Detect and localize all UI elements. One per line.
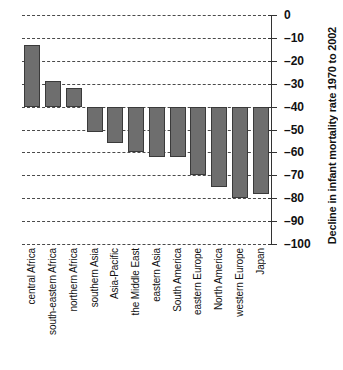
y-tick-label-neg60: –60: [284, 145, 304, 159]
bar-central-africa: [24, 45, 40, 107]
y-axis-title-text: Decline in infant mortality rate 1970 to…: [326, 27, 338, 244]
y-axis-title: Decline in infant mortality rate 1970 to…: [323, 15, 341, 244]
bar-south-eastern-africa: [45, 81, 61, 106]
x-label-western-europe: western Europe: [234, 248, 245, 317]
x-label-south-eastern-africa: south-eastern Africa: [47, 248, 58, 335]
gridline-neg100: [22, 244, 271, 245]
y-tick-label-neg70: –70: [284, 168, 304, 182]
y-tick-label-neg100: –100: [284, 237, 311, 251]
x-axis-labels: central Africasouth-eastern Africanorthe…: [22, 248, 271, 366]
y-tick-label-neg20: –20: [284, 54, 304, 68]
y-tick-label-neg30: –30: [284, 77, 304, 91]
y-axis: 0–10–20–30–40–50–60–70–80–90–100: [271, 15, 272, 244]
x-label-asia-pacific: Asia-Pacific: [109, 248, 120, 299]
y-tick-neg70: [268, 175, 277, 176]
x-label-northern-africa: northern Africa: [68, 248, 79, 312]
bar-chart: 0–10–20–30–40–50–60–70–80–90–100 Decline…: [0, 0, 343, 370]
bar-southern-asia: [87, 107, 103, 132]
x-label-japan: Japan: [255, 248, 266, 275]
y-tick-neg80: [268, 198, 277, 199]
y-tick-label-0: 0: [284, 8, 291, 22]
y-tick-neg60: [268, 152, 277, 153]
x-label-eastern-europe: eastern Europe: [192, 248, 203, 315]
bar-series: [22, 15, 271, 244]
bar-northern-africa: [66, 88, 82, 106]
bar-north-america: [211, 107, 227, 187]
y-tick-neg50: [268, 130, 277, 131]
y-tick-label-neg90: –90: [284, 214, 304, 228]
x-label-south-america: South America: [172, 248, 183, 312]
x-label-north-america: North America: [213, 248, 224, 310]
bar-south-america: [170, 107, 186, 157]
y-tick-label-neg80: –80: [284, 191, 304, 205]
y-tick-neg100: [268, 244, 277, 245]
y-tick-label-neg50: –50: [284, 123, 304, 137]
y-tick-neg20: [268, 61, 277, 62]
bar-asia-pacific: [107, 107, 123, 144]
y-tick-0: [268, 15, 277, 16]
bar-eastern-asia: [149, 107, 165, 157]
y-tick-neg90: [268, 221, 277, 222]
y-tick-label-neg10: –10: [284, 31, 304, 45]
bar-japan: [253, 107, 269, 194]
bar-eastern-europe: [190, 107, 206, 176]
bar-western-europe: [232, 107, 248, 199]
x-label-the-middle-east: the Middle East: [130, 248, 141, 315]
x-label-southern-asia: southern Asia: [89, 248, 100, 307]
x-label-central-africa: central Africa: [26, 248, 37, 304]
y-tick-neg10: [268, 38, 277, 39]
y-tick-neg30: [268, 84, 277, 85]
y-tick-neg40: [268, 107, 277, 108]
y-tick-label-neg40: –40: [284, 100, 304, 114]
plot-area: [22, 15, 271, 244]
x-label-eastern-asia: eastern Asia: [151, 248, 162, 302]
bar-the-middle-east: [128, 107, 144, 153]
